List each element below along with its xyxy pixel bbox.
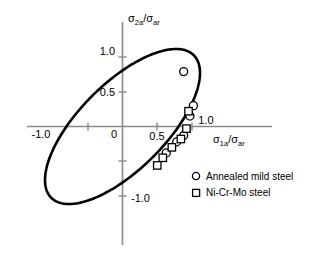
legend-circle-icon xyxy=(192,172,199,179)
x-axis-label-slash: /σ xyxy=(228,133,238,145)
x-tick-label-zero: 0 xyxy=(111,128,117,140)
y-tick-label-one: 1.0 xyxy=(100,45,115,57)
y-axis-label: σ2a/σar xyxy=(128,12,160,27)
data-point-square-5 xyxy=(154,162,161,169)
data-point-square-4 xyxy=(159,154,166,161)
data-point-circle-0 xyxy=(180,68,188,76)
y-axis-label-sub2: ar xyxy=(153,18,160,27)
legend: Annealed mild steel Ni-Cr-Mo steel xyxy=(192,171,293,199)
svg-text:σ2a/σar: σ2a/σar xyxy=(128,12,160,27)
x-axis-label: σ1a/σar xyxy=(213,133,245,148)
x-tick-label-neg-one: -1.0 xyxy=(32,128,51,140)
y-axis-label-slash: /σ xyxy=(143,12,153,24)
data-point-square-1 xyxy=(183,125,190,132)
legend-label-annealed-mild-steel: Annealed mild steel xyxy=(206,171,293,182)
data-point-square-0 xyxy=(185,108,192,115)
data-point-square-2 xyxy=(177,135,184,142)
data-point-square-3 xyxy=(168,144,175,151)
chart-svg: -1.0 0 0.5 1.0 1.0 0.5 -1.0 σ2a/σar σ1a/… xyxy=(0,0,320,259)
data-markers xyxy=(154,68,198,170)
svg-text:σ1a/σar: σ1a/σar xyxy=(213,133,245,148)
x-tick-label-one: 1.0 xyxy=(198,114,213,126)
legend-label-ni-cr-mo-steel: Ni-Cr-Mo steel xyxy=(206,187,270,198)
x-tick-label-half: 0.5 xyxy=(149,130,164,142)
fatigue-envelope-chart: -1.0 0 0.5 1.0 1.0 0.5 -1.0 σ2a/σar σ1a/… xyxy=(0,0,320,259)
x-axis-label-sub2: ar xyxy=(238,139,245,148)
y-tick-label-neg-one: -1.0 xyxy=(131,192,150,204)
legend-square-icon xyxy=(193,189,200,196)
